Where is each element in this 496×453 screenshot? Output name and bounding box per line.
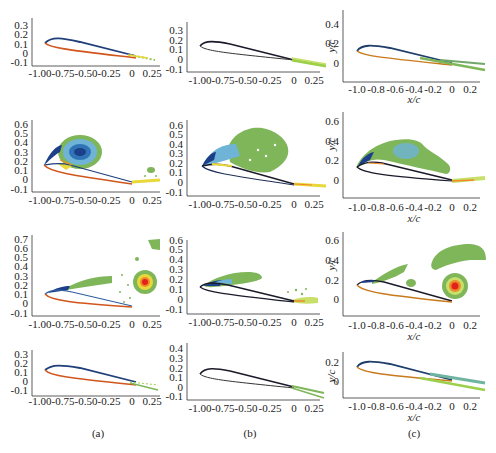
caption-b: (b) (244, 427, 257, 440)
svg-text:-0.75: -0.75 (212, 316, 235, 328)
svg-text:0.25: 0.25 (304, 74, 324, 86)
svg-text:0: 0 (291, 74, 297, 86)
panel-c1: 0.4 0.2 0 y/c -1.0 -0.8 -0.6 -0.4 -0.2 0… (325, 10, 485, 105)
figure: 0.3 0.2 0.1 0 -0.1 -1.00 -0.75 -0.50 -0.… (0, 0, 496, 453)
y-ticks: 0.3 0.2 0.1 0 -0.1 (11, 19, 29, 68)
y-axis-label: y/c (325, 39, 337, 53)
axes (187, 343, 320, 400)
svg-text:0.6: 0.6 (325, 234, 339, 246)
x-axis-label: x/c (407, 93, 421, 105)
panel-c2: 0.6 0.4 0.2 0 y/c -1.0 -0.8 -0.6 -0.4 -0… (325, 112, 485, 224)
svg-text:0: 0 (129, 67, 135, 79)
svg-text:-0.50: -0.50 (235, 316, 258, 328)
panel-b1: 0.3 0.2 0.1 0 -0.1 -1.00 -0.75 -0.50 -0.… (166, 22, 326, 86)
svg-text:-0.2: -0.2 (424, 319, 441, 331)
y-ticks: 0.6 0.5 0.4 0.3 0.2 0.1 0 -0.1 (166, 234, 184, 315)
svg-text:-0.25: -0.25 (98, 67, 121, 79)
svg-text:0.25: 0.25 (142, 67, 162, 79)
x-ticks: -1.00 -0.75 -0.50 -0.25 0 0.25 (189, 74, 325, 86)
svg-text:-0.50: -0.50 (235, 198, 258, 210)
axes (187, 22, 320, 72)
svg-text:-0.6: -0.6 (386, 201, 404, 213)
svg-text:0: 0 (291, 316, 297, 328)
svg-text:0: 0 (334, 57, 340, 69)
svg-text:-0.6: -0.6 (386, 319, 404, 331)
svg-text:-0.75: -0.75 (52, 194, 75, 206)
caption-a: (a) (92, 427, 105, 440)
panel-a4: 0.3 0.2 0.1 0 -0.1 -1.00 -0.75 -0.50 -0.… (11, 348, 163, 407)
svg-text:-1.00: -1.00 (189, 402, 212, 414)
svg-text:-0.50: -0.50 (235, 74, 258, 86)
panel-c3: 0.6 0.4 0.2 0 y/c -1.0 -0.8 -0.6 -0.4 -0… (325, 232, 486, 342)
svg-text:-1.0: -1.0 (348, 319, 366, 331)
svg-text:-1.0: -1.0 (348, 201, 366, 213)
svg-text:-0.25: -0.25 (259, 198, 282, 210)
svg-text:0: 0 (449, 201, 455, 213)
svg-text:-0.25: -0.25 (259, 402, 282, 414)
svg-text:-0.25: -0.25 (259, 74, 282, 86)
y-axis-label: y/c (325, 369, 337, 383)
svg-text:-1.00: -1.00 (189, 198, 212, 210)
svg-text:0.4: 0.4 (325, 18, 339, 30)
svg-text:-0.8: -0.8 (367, 201, 385, 213)
svg-text:0.6: 0.6 (325, 115, 339, 127)
panel-b4: 0.4 0.3 0.2 0.1 0 -0.1 -1.00 -0.75 -0.50… (166, 342, 325, 414)
svg-text:-1.00: -1.00 (29, 395, 52, 407)
x-ticks: -1.00 -0.75 -0.50 -0.25 0 0.25 (189, 402, 325, 414)
svg-text:0: 0 (449, 400, 455, 412)
svg-text:-0.1: -0.1 (11, 183, 28, 195)
svg-text:0: 0 (449, 83, 455, 95)
svg-text:0.2: 0.2 (463, 319, 477, 331)
svg-text:-0.6: -0.6 (386, 83, 404, 95)
svg-text:-0.1: -0.1 (166, 63, 183, 75)
svg-text:-0.25: -0.25 (98, 194, 121, 206)
y-axis-label: y/c (325, 137, 337, 151)
axes (32, 18, 160, 66)
svg-text:-0.25: -0.25 (98, 395, 121, 407)
svg-text:-1.0: -1.0 (348, 83, 366, 95)
y-ticks: 0.3 0.2 0.1 0 -0.1 (11, 348, 29, 396)
y-ticks: 0.7 0.6 0.5 0.4 0.3 0.2 0.1 0 -0.1 (11, 233, 29, 319)
x-ticks: -1.00 -0.75 -0.50 -0.25 0 0.25 (29, 67, 163, 79)
svg-text:-0.6: -0.6 (386, 400, 404, 412)
y-ticks: 0.6 0.5 0.4 0.3 0.2 0.1 0 -0.1 (11, 118, 29, 195)
svg-text:-0.2: -0.2 (424, 400, 441, 412)
x-ticks: -1.00 -0.75 -0.50 -0.25 0 0.25 (189, 316, 325, 328)
svg-text:-0.25: -0.25 (259, 316, 282, 328)
svg-text:-0.50: -0.50 (235, 402, 258, 414)
svg-text:0.2: 0.2 (463, 201, 477, 213)
axes (343, 352, 480, 398)
svg-text:-0.75: -0.75 (52, 67, 75, 79)
svg-text:-0.1: -0.1 (11, 384, 28, 396)
svg-text:0: 0 (291, 402, 297, 414)
svg-text:-0.75: -0.75 (52, 395, 75, 407)
y-ticks: 0.3 0.2 0.1 0 -0.1 (166, 24, 184, 75)
svg-text:-1.00: -1.00 (189, 74, 212, 86)
x-ticks: -1.00 -0.75 -0.50 -0.25 0 0.25 (29, 194, 163, 206)
svg-text:-0.1: -0.1 (166, 390, 183, 402)
svg-text:0: 0 (334, 293, 340, 305)
x-axis-label: x/c (407, 212, 421, 224)
svg-text:0: 0 (129, 395, 135, 407)
svg-text:-0.1: -0.1 (11, 307, 28, 319)
svg-text:-0.75: -0.75 (212, 198, 235, 210)
svg-text:0.25: 0.25 (304, 316, 324, 328)
svg-text:0.25: 0.25 (142, 194, 162, 206)
svg-text:0.25: 0.25 (142, 395, 162, 407)
svg-text:-1.00: -1.00 (29, 194, 52, 206)
svg-text:0.25: 0.25 (304, 198, 324, 210)
svg-text:0: 0 (334, 174, 340, 186)
panel-a1: 0.3 0.2 0.1 0 -0.1 -1.00 -0.75 -0.50 -0.… (11, 18, 163, 79)
svg-text:0.2: 0.2 (463, 83, 477, 95)
svg-text:-1.00: -1.00 (29, 318, 52, 330)
svg-text:0.2: 0.2 (325, 274, 339, 286)
caption-c: (c) (408, 427, 421, 440)
panel-a2: 0.6 0.5 0.4 0.3 0.2 0.1 0 -0.1 -1.00 -0.… (11, 118, 163, 206)
svg-text:-0.75: -0.75 (212, 402, 235, 414)
svg-text:0.2: 0.2 (325, 154, 339, 166)
svg-text:-0.8: -0.8 (367, 400, 385, 412)
svg-text:0: 0 (291, 198, 297, 210)
svg-text:-0.50: -0.50 (75, 318, 98, 330)
x-axis-label: x/c (407, 411, 421, 423)
svg-text:-0.1: -0.1 (166, 303, 183, 315)
